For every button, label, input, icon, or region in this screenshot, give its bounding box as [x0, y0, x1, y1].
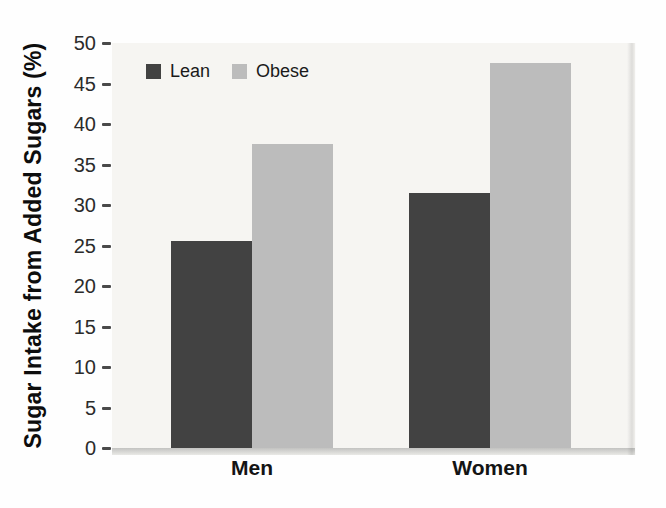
- y-axis-title: Sugar Intake from Added Sugars (%): [12, 43, 56, 448]
- bar-women-obese: [490, 63, 571, 448]
- y-tick-label: 25: [52, 234, 96, 258]
- y-tick-mark: [102, 83, 111, 86]
- y-tick-label: 35: [52, 153, 96, 177]
- x-axis-label-men: Men: [192, 456, 312, 480]
- y-tick-label: 15: [52, 315, 96, 339]
- y-tick-mark: [102, 285, 111, 288]
- y-tick-label: 5: [52, 396, 96, 420]
- plot-area: LeanObese: [112, 43, 635, 448]
- y-tick-mark: [102, 245, 111, 248]
- x-axis-label-women: Women: [430, 456, 550, 480]
- plot-bottom-edge-shading: [112, 448, 635, 455]
- y-tick-label: 50: [52, 31, 96, 55]
- y-axis-title-text: Sugar Intake from Added Sugars (%): [21, 43, 48, 449]
- y-tick-mark: [102, 326, 111, 329]
- bar-women-lean: [409, 193, 490, 448]
- bar-men-obese: [252, 144, 333, 448]
- y-tick-mark: [102, 204, 111, 207]
- y-tick-mark: [102, 407, 111, 410]
- y-tick-label: 40: [52, 112, 96, 136]
- y-tick-mark: [102, 164, 111, 167]
- bars-layer: [112, 43, 635, 448]
- y-tick-label: 0: [52, 436, 96, 460]
- bar-men-lean: [171, 241, 252, 448]
- y-tick-mark: [102, 447, 111, 450]
- plot-right-edge-shading: [627, 43, 636, 455]
- bar-chart-figure: Sugar Intake from Added Sugars (%) 05101…: [0, 0, 666, 508]
- y-tick-mark: [102, 42, 111, 45]
- y-tick-label: 30: [52, 193, 96, 217]
- y-tick-label: 10: [52, 355, 96, 379]
- y-tick-label: 20: [52, 274, 96, 298]
- y-tick-mark: [102, 366, 111, 369]
- y-tick-mark: [102, 123, 111, 126]
- y-tick-label: 45: [52, 72, 96, 96]
